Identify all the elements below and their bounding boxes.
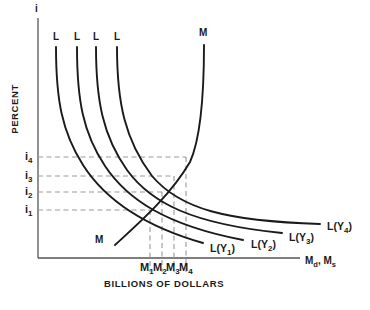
curve-top-label-L3: L [93, 32, 99, 42]
y-axis-symbol: i [35, 4, 38, 14]
curve-label-L-Y2-base: L(Y [251, 238, 268, 250]
curve-label-L-Y1-close: ) [231, 242, 235, 254]
x-tick-label-M4: M4 [179, 262, 193, 276]
x-tick-sub-M4: 4 [188, 267, 192, 276]
x-axis-symbol-separator: , [318, 255, 321, 266]
curve-L-Y3 [96, 47, 282, 233]
x-tick-label-M3: M3 [166, 262, 180, 276]
curve-top-label-L1: L [53, 32, 59, 42]
y-tick-sub-i2: 2 [28, 191, 32, 200]
curve-label-L-Y1: L(Y1) [210, 243, 235, 257]
x-axis-symbol-ms-sub: s [332, 260, 336, 269]
x-axis-symbols: Md, Ms [305, 256, 336, 269]
y-tick-sub-i1: 1 [28, 209, 32, 218]
x-axis-symbol-ms-base: M [324, 255, 332, 266]
x-tick-base-M3: M [166, 261, 175, 273]
curve-L-Y2 [77, 47, 243, 240]
x-tick-base-M4: M [179, 261, 188, 273]
y-tick-label-i4: i4 [25, 151, 33, 165]
curve-bottom-label-money-supply: M [95, 235, 103, 245]
curve-label-L-Y4-base: L(Y [327, 220, 344, 232]
x-tick-label-M2: M2 [153, 262, 167, 276]
curve-label-L-Y4: L(Y4) [327, 221, 352, 235]
y-tick-label-i2: i2 [25, 186, 33, 200]
vertical-guide-lines [150, 157, 186, 272]
curve-top-label-money-supply: M [199, 28, 207, 38]
curve-label-L-Y3: L(Y3) [289, 232, 314, 246]
y-axis-title: PERCENT [10, 112, 20, 134]
x-tick-label-M1: M1 [140, 262, 154, 276]
curve-L-Y4 [117, 47, 320, 224]
y-tick-label-i3: i3 [25, 170, 33, 184]
curve-label-L-Y1-base: L(Y [210, 242, 227, 254]
curve-label-L-Y3-close: ) [310, 231, 314, 243]
curve-top-label-L2: L [74, 32, 80, 42]
y-tick-sub-i4: 4 [28, 156, 32, 165]
money-demand-curves [56, 47, 320, 243]
curve-label-L-Y4-close: ) [348, 220, 352, 232]
x-tick-base-M2: M [153, 261, 162, 273]
curve-label-L-Y2-close: ) [272, 238, 276, 250]
curve-label-L-Y3-base: L(Y [289, 231, 306, 243]
money-market-figure: i PERCENT i4 i3 i2 i1 M1 M2 M3 M4 Md, Ms… [0, 0, 370, 310]
curve-top-label-L4: L [114, 32, 120, 42]
x-tick-base-M1: M [140, 261, 149, 273]
x-axis-title: BILLIONS OF DOLLARS [104, 279, 224, 289]
curve-label-L-Y2: L(Y2) [251, 239, 276, 253]
y-tick-sub-i3: 3 [28, 175, 32, 184]
y-tick-label-i1: i1 [25, 204, 33, 218]
